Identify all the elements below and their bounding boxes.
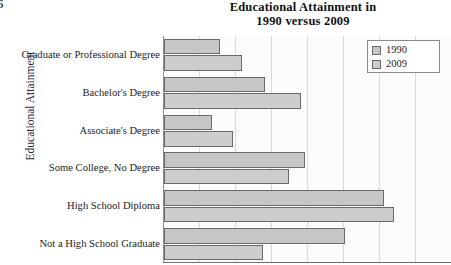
chart-title-line-1: Educational Attainment in bbox=[230, 0, 377, 14]
page-number: 6 bbox=[0, 0, 11, 12]
category-label-5: Not a High School Graduate bbox=[20, 238, 160, 249]
bar-2009-0 bbox=[164, 55, 242, 71]
bar-1990-1 bbox=[164, 77, 265, 93]
legend-swatch-icon-1990 bbox=[372, 46, 381, 55]
x-axis-line bbox=[163, 262, 451, 263]
bar-2009-1 bbox=[164, 93, 301, 109]
category-label-4: High School Diploma bbox=[20, 200, 160, 211]
category-label-2: Associate's Degree bbox=[20, 125, 160, 136]
chart-page: 6 Educational Attainment in 1990 versus … bbox=[0, 0, 451, 265]
legend-label-1990: 1990 bbox=[386, 44, 407, 56]
bar-1990-5 bbox=[164, 228, 345, 244]
category-axis-labels: Graduate or Professional DegreeBachelor'… bbox=[20, 36, 160, 263]
bar-1990-0 bbox=[164, 39, 220, 55]
legend-label-2009: 2009 bbox=[386, 58, 407, 70]
bar-2009-5 bbox=[164, 245, 263, 261]
bar-2009-3 bbox=[164, 169, 289, 185]
category-label-1: Bachelor's Degree bbox=[20, 87, 160, 98]
chart-title: Educational Attainment in 1990 versus 20… bbox=[155, 1, 451, 28]
y-axis-line bbox=[163, 36, 164, 263]
legend-swatch-icon-2009 bbox=[372, 60, 381, 69]
chart-legend: 1990 2009 bbox=[367, 40, 440, 73]
bar-1990-2 bbox=[164, 115, 212, 131]
category-label-3: Some College, No Degree bbox=[20, 162, 160, 173]
bar-2009-4 bbox=[164, 207, 394, 223]
bar-1990-4 bbox=[164, 190, 384, 206]
bar-2009-2 bbox=[164, 131, 233, 147]
chart-title-line-2: 1990 versus 2009 bbox=[155, 15, 451, 29]
legend-item-2009: 2009 bbox=[372, 57, 435, 71]
category-label-0: Graduate or Professional Degree bbox=[20, 49, 160, 60]
legend-item-1990: 1990 bbox=[372, 43, 435, 57]
bar-1990-3 bbox=[164, 152, 305, 168]
